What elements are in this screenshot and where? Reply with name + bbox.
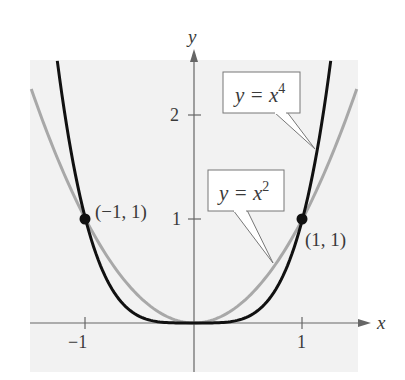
point-label-left: (−1, 1) [95, 201, 147, 223]
y-axis-label: y [186, 26, 197, 47]
point-label-right: (1, 1) [305, 229, 346, 251]
tick-label-y-1: 1 [172, 209, 181, 229]
x-axis-arrow-icon [358, 319, 371, 327]
function-graph: y = x4 y = x2 y x −1 1 1 2 (−1, 1) (1, 1… [0, 0, 405, 380]
x-axis-label: x [376, 312, 386, 333]
callout-x2-text: y = x2 [217, 179, 269, 205]
tick-label-x-neg1: −1 [68, 332, 87, 352]
point-1-1 [297, 214, 308, 225]
callout-x4-text: y = x4 [233, 81, 285, 107]
tick-label-x-1: 1 [297, 332, 306, 352]
y-axis-arrow-icon [190, 49, 198, 62]
point-neg1-1 [80, 214, 91, 225]
tick-label-y-2: 2 [170, 105, 179, 125]
